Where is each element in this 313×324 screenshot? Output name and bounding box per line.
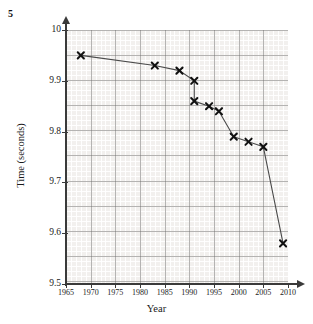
plot-area — [66, 30, 288, 284]
y-tick — [62, 182, 68, 183]
figure: 5 9.59.69.79.89.910 19651970197519801985… — [0, 0, 313, 324]
y-axis-title: Time (seconds) — [15, 56, 26, 256]
y-tick — [62, 284, 68, 285]
y-tick — [62, 132, 68, 133]
y-tick — [62, 30, 68, 31]
y-tick-label: 10 — [21, 24, 61, 34]
y-tick-label: 9.6 — [21, 227, 61, 237]
y-tick — [62, 233, 68, 234]
grid-major — [66, 30, 288, 284]
y-axis-line — [65, 22, 67, 286]
question-number: 5 — [8, 8, 13, 19]
x-tick-label: 2010 — [273, 288, 303, 297]
y-tick-label: 9.8 — [21, 126, 61, 136]
y-tick-label: 9.5 — [21, 278, 61, 288]
x-axis-title: Year — [0, 303, 313, 314]
x-axis-arrow-icon — [297, 280, 305, 288]
y-tick-label: 9.9 — [21, 75, 61, 85]
y-axis-arrow-icon — [62, 16, 70, 24]
y-tick-label: 9.7 — [21, 176, 61, 186]
y-tick — [62, 81, 68, 82]
